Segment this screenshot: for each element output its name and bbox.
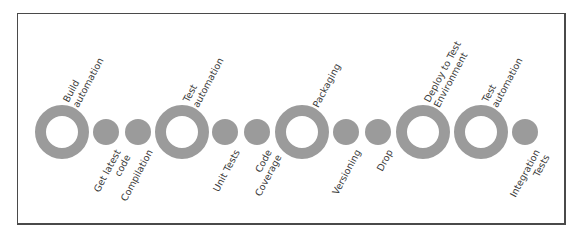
pipeline-diagram: BuildautomationGet latestcodeCompilation… [0, 0, 587, 240]
node-label: Versioning [330, 148, 363, 197]
ring-node-icon [460, 111, 503, 154]
node-label: Testautomation [180, 51, 226, 110]
node-unit-tests: Unit Tests [211, 119, 242, 193]
dot-node-icon [93, 119, 119, 145]
ring-node-icon [161, 111, 204, 154]
node-label-line: Drop [374, 148, 394, 173]
node-label-line: automation [190, 56, 225, 109]
ring-node-icon [41, 111, 84, 154]
node-label: Packaging [310, 61, 342, 109]
node-label-line: automation [489, 56, 524, 109]
dot-node-icon [212, 119, 238, 145]
ring-node-icon [402, 111, 445, 154]
node-packaging: Packaging [281, 61, 343, 153]
node-label: Unit Tests [211, 147, 242, 193]
node-versioning: Versioning [330, 119, 363, 197]
node-label: Deploy to TestEnvironment [422, 39, 473, 109]
node-label: IntegrationTests [508, 147, 552, 204]
dot-node-icon [512, 119, 538, 145]
node-label: Testautomation [479, 51, 525, 110]
ring-node-icon [281, 111, 324, 154]
node-label-line: Unit Tests [211, 147, 242, 193]
dot-node-icon [244, 119, 270, 145]
node-label-line: Packaging [310, 61, 342, 109]
node-label-line: Versioning [330, 148, 363, 197]
dot-node-icon [333, 119, 359, 145]
node-label: Drop [374, 148, 394, 173]
node-label: Buildautomation [61, 51, 106, 110]
node-label: CodeCoverage [243, 147, 284, 198]
dot-node-icon [365, 119, 391, 145]
node-integration-tests: IntegrationTests [508, 119, 552, 204]
dot-node-icon [125, 119, 151, 145]
node-drop: Drop [365, 119, 395, 173]
